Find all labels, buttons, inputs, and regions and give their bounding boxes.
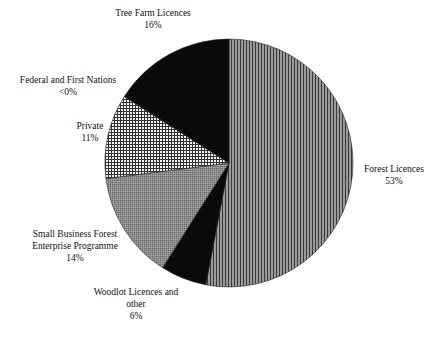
label-forest: Forest Licences 53% — [350, 163, 438, 187]
label-tree-farm: Tree Farm Licences 16% — [98, 7, 208, 31]
label-text: Private — [66, 120, 114, 132]
label-pct: <0% — [6, 86, 130, 98]
label-text: Small Business Forest — [18, 228, 132, 240]
label-federal: Federal and First Nations <0% — [6, 74, 130, 98]
label-pct: 16% — [98, 19, 208, 31]
pie-slices — [105, 39, 353, 287]
label-pct: 14% — [18, 252, 132, 264]
label-text-2: other — [80, 298, 192, 310]
label-text-2: Enterprise Programme — [18, 240, 132, 252]
label-text: Tree Farm Licences — [98, 7, 208, 19]
label-woodlot: Woodlot Licences and other 6% — [80, 286, 192, 322]
label-text: Woodlot Licences and — [80, 286, 192, 298]
label-private: Private 11% — [66, 120, 114, 144]
label-pct: 11% — [66, 132, 114, 144]
label-text: Forest Licences — [350, 163, 438, 175]
label-pct: 6% — [80, 310, 192, 322]
label-text: Federal and First Nations — [6, 74, 130, 86]
label-sbfep: Small Business Forest Enterprise Program… — [18, 228, 132, 264]
label-pct: 53% — [350, 175, 438, 187]
